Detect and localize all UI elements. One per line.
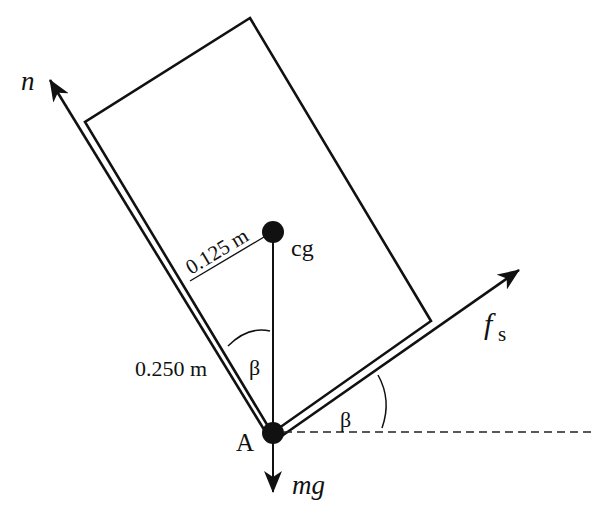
angle-label-right: β [340,407,351,432]
height-to-cg-label: 0.250 m [135,356,207,381]
angle-arc-left [228,330,270,346]
friction-force-label: f [484,307,496,340]
angle-arc-right [378,375,386,428]
center-of-gravity-point [262,221,284,243]
normal-force-vector [50,80,268,436]
pivot-point-A [262,422,284,444]
half-width-label: 0.125 m [181,223,252,279]
friction-force-subscript: s [498,322,506,346]
pivot-point-label: A [236,429,254,456]
cg-label: cg [291,235,314,261]
friction-force-vector [276,270,519,440]
weight-label: mg [292,470,325,500]
angle-label-left: β [249,355,260,380]
free-body-diagram: n cg 0.125 m 0.250 m β β A mg f s [0,0,601,512]
normal-force-label: n [21,66,35,96]
